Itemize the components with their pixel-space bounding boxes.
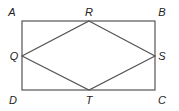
label-c: C [158,94,166,106]
label-a: A [7,6,15,18]
label-r: R [85,6,93,18]
label-b: B [158,6,165,18]
label-d: D [9,94,17,106]
rhombus-qrst [22,21,155,90]
geometry-diagram: A B R Q S D T C [0,0,179,111]
label-q: Q [10,50,19,62]
label-t: T [86,94,94,106]
label-s: S [158,50,166,62]
rectangle-abcd [22,21,155,90]
